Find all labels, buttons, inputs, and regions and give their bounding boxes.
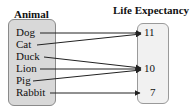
domain-item-rabbit: Rabbit	[16, 87, 45, 98]
range-item-11: 11	[144, 27, 155, 38]
arrow-duck-10	[44, 57, 141, 68]
domain-item-dog: Dog	[16, 27, 35, 38]
domain-item-cat: Cat	[16, 39, 31, 50]
domain-item-pig: Pig	[16, 75, 31, 86]
arrow-cat-11	[37, 34, 141, 45]
range-item-7: 7	[150, 87, 156, 98]
arrow-pig-10	[33, 70, 141, 81]
domain-item-lion: Lion	[16, 63, 37, 74]
domain-item-duck: Duck	[16, 51, 40, 62]
range-item-10: 10	[144, 63, 155, 74]
